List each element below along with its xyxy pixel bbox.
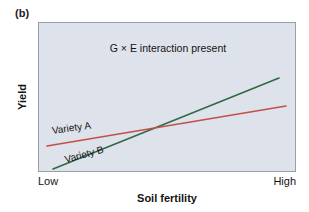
x-axis-tick-high: High: [273, 175, 296, 188]
x-axis-tick-low: Low: [38, 175, 58, 188]
y-axis-title: Yield: [16, 84, 29, 110]
figure-panel-b: (b) G × E interaction present Variety A …: [0, 0, 309, 212]
x-axis-title: Soil fertility: [38, 192, 296, 205]
chart-title: G × E interaction present: [39, 42, 297, 55]
plot-area: G × E interaction present Variety A Vari…: [38, 22, 296, 172]
panel-label: (b): [15, 7, 29, 20]
